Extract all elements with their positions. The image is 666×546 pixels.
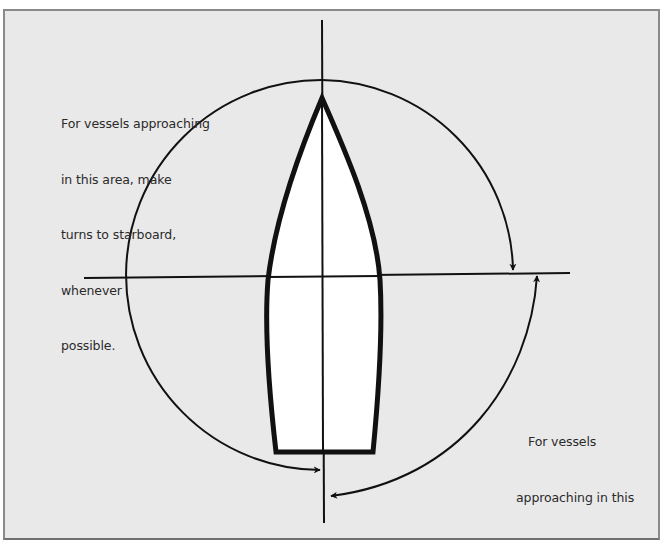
starboard-annotation-line: turns to starboard, [61,226,210,245]
beam-line-over-hull [268,276,380,277]
port-annotation: For vessels approaching in this area, ma… [496,396,656,546]
port-annotation-line: For vessels [496,433,656,452]
centerline-over-hull [322,98,323,452]
starboard-annotation: For vessels approaching in this area, ma… [61,78,210,374]
starboard-annotation-line: in this area, make [61,171,210,190]
starboard-annotation-line: possible. [61,337,210,356]
starboard-annotation-line: For vessels approaching [61,115,210,134]
port-annotation-line: approaching in this [496,489,656,508]
starboard-annotation-line: whenever [61,282,210,301]
